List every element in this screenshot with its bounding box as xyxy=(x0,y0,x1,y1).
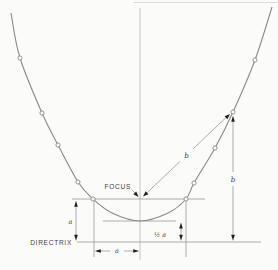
dimension-half-a-label: ½ a xyxy=(154,231,166,239)
dimension-b-vertical-label: b xyxy=(231,175,236,184)
curve-point-marker xyxy=(18,56,22,60)
curve-point-marker xyxy=(56,143,60,147)
down-arrow-icon xyxy=(74,235,78,241)
curve-point-marker xyxy=(76,180,80,184)
up-arrow-icon xyxy=(231,116,235,122)
up-arrow-icon xyxy=(179,223,183,229)
dimension-b-slant-label: b xyxy=(184,151,189,160)
curve-point-marker xyxy=(40,111,44,115)
dimension-a-bottom-label: a xyxy=(115,247,119,255)
dimension-b-vertical: b xyxy=(231,116,236,241)
curve-point-markers xyxy=(18,56,257,201)
down-arrow-icon xyxy=(179,235,183,241)
curve-point-marker xyxy=(253,58,257,62)
dimension-b-slant-line-upper xyxy=(193,117,227,149)
curve-point-marker xyxy=(184,197,188,201)
curve-point-marker xyxy=(91,197,95,201)
focus-pointer-line xyxy=(132,190,136,194)
focus-label: FOCUS xyxy=(104,183,131,190)
dimension-a-left: a xyxy=(69,201,78,241)
left-arrow-icon xyxy=(95,249,101,253)
down-arrow-icon xyxy=(231,235,235,241)
curve-point-marker xyxy=(213,146,217,150)
diagram-canvas: FOCUS DIRECTRIX a ½ a a b b xyxy=(0,0,278,270)
curve-point-marker xyxy=(231,110,235,114)
dimension-a-left-label: a xyxy=(69,218,73,226)
dimension-b-slant: b xyxy=(143,114,230,197)
directrix-label: DIRECTRIX xyxy=(30,239,72,246)
dimension-half-a: ½ a xyxy=(154,223,183,241)
parabola-diagram: FOCUS DIRECTRIX a ½ a a b b xyxy=(0,0,278,270)
curve-point-marker xyxy=(192,181,196,185)
dimension-b-slant-line-lower xyxy=(147,162,181,194)
dimension-a-bottom: a xyxy=(95,247,139,255)
up-arrow-icon xyxy=(74,201,78,207)
right-arrow-icon xyxy=(133,249,139,253)
